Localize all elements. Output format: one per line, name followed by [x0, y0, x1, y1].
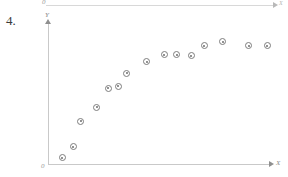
data-point-marker	[264, 42, 271, 49]
data-point-marker	[93, 104, 100, 111]
figure-4-scatter-plot: X 0 4. Y X 0	[0, 0, 288, 177]
origin-label: 0	[41, 162, 45, 170]
data-point-marker	[188, 52, 195, 59]
x-axis-line	[48, 164, 270, 165]
data-point-marker	[245, 42, 252, 49]
y-axis-line	[48, 24, 49, 164]
data-point-marker	[70, 143, 77, 150]
data-point-marker	[219, 38, 226, 45]
x-axis-label: X	[276, 159, 280, 167]
data-point-marker	[173, 51, 180, 58]
y-axis-arrow-icon	[45, 19, 51, 24]
item-number-label: 4.	[6, 14, 16, 28]
previous-figure-x-axis-line	[46, 5, 274, 6]
data-point-marker	[105, 85, 112, 92]
data-point-marker	[115, 83, 122, 90]
previous-figure-origin-label: 0	[42, 0, 46, 6]
x-axis-arrow-icon	[269, 161, 274, 167]
previous-figure-x-axis-arrow-icon	[273, 2, 278, 8]
previous-figure-x-axis-label: X	[279, 0, 283, 7]
data-point-marker	[201, 42, 208, 49]
y-axis-label: Y	[45, 11, 49, 19]
data-point-marker	[161, 51, 168, 58]
data-point-marker	[143, 58, 150, 65]
data-point-marker	[123, 70, 130, 77]
scatter-plot-area	[0, 0, 288, 177]
data-point-marker	[77, 118, 84, 125]
data-point-marker	[59, 154, 66, 161]
